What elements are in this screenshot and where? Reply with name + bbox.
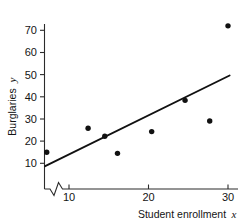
y-axis-group: 70 60 50 40 30 20 10 Burglaries y [6, 24, 45, 189]
data-point [207, 118, 212, 123]
y-tick-label-40: 40 [25, 91, 37, 103]
x-tick-label-10: 10 [63, 191, 75, 203]
data-point [102, 134, 107, 139]
data-point [115, 151, 120, 156]
x-axis-group: 10 20 30 Student enrollment x [45, 183, 239, 221]
data-point [225, 23, 230, 28]
scatter-plot-figure: 70 60 50 40 30 20 10 Burglaries y 10 20 … [0, 0, 248, 223]
x-axis-title: Student enrollment [138, 208, 226, 220]
regression-line [45, 76, 229, 167]
data-point [182, 98, 187, 103]
y-tick-label-30: 30 [25, 113, 37, 125]
plot-canvas: 70 60 50 40 30 20 10 Burglaries y 10 20 … [0, 0, 248, 223]
y-tick-label-20: 20 [25, 135, 37, 147]
data-point [85, 126, 90, 131]
x-axis-title-variable: x [231, 208, 237, 220]
x-tick-label-30: 30 [222, 191, 234, 203]
y-tick-label-50: 50 [25, 69, 37, 81]
data-point [44, 150, 49, 155]
y-axis-title: Burglaries [6, 88, 18, 135]
y-tick-label-10: 10 [25, 157, 37, 169]
y-tick-label-60: 60 [25, 46, 37, 58]
y-tick-label-70: 70 [25, 24, 37, 36]
y-axis-title-variable: y [6, 77, 18, 83]
y-axis-title-group: Burglaries y [6, 77, 18, 135]
x-tick-label-20: 20 [142, 191, 154, 203]
data-point [149, 129, 154, 134]
